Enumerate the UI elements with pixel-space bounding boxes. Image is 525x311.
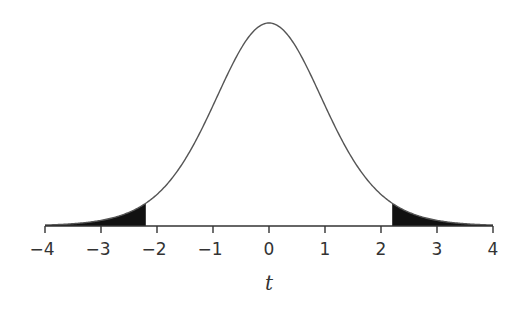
x-tick-label: 1 bbox=[320, 239, 331, 259]
x-tick-label: −3 bbox=[85, 239, 110, 259]
x-tick-label: −4 bbox=[29, 239, 54, 259]
left-tail-region bbox=[45, 203, 146, 226]
x-tick-label: 0 bbox=[264, 239, 275, 259]
right-tail-region bbox=[392, 203, 493, 226]
density-curve bbox=[45, 23, 493, 225]
x-tick-label: −1 bbox=[197, 239, 222, 259]
x-tick-label: 3 bbox=[432, 239, 443, 259]
t-distribution-chart: −4−3−2−101234 t bbox=[0, 0, 525, 311]
x-tick-label: 4 bbox=[488, 239, 499, 259]
shaded-tail-regions bbox=[45, 203, 493, 226]
x-tick-label: 2 bbox=[376, 239, 387, 259]
x-axis-title: t bbox=[265, 271, 274, 295]
x-tick-label: −2 bbox=[141, 239, 166, 259]
x-axis-ticks: −4−3−2−101234 bbox=[29, 226, 498, 259]
